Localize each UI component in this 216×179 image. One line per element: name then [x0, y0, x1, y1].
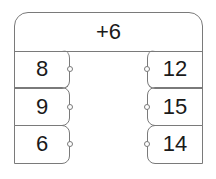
input-value: 8 [36, 56, 48, 82]
output-column: 12 15 14 [147, 51, 203, 164]
output-value: 14 [163, 131, 187, 157]
connector-dot-icon [67, 141, 73, 147]
connector-dot-icon [144, 104, 150, 110]
output-value: 15 [163, 94, 187, 120]
input-cell: 8 [14, 50, 70, 89]
output-value: 12 [163, 56, 187, 82]
input-value: 9 [36, 94, 48, 120]
rule-label: +6 [96, 19, 121, 45]
input-value: 6 [36, 131, 48, 157]
connector-dot-icon [144, 66, 150, 72]
output-cell: 14 [147, 125, 203, 164]
connector-dot-icon [144, 141, 150, 147]
output-cell: 12 [147, 50, 203, 89]
connector-dot-icon [67, 66, 73, 72]
input-column: 8 9 6 [14, 51, 70, 164]
input-cell: 6 [14, 125, 70, 164]
function-machine-header: +6 [14, 12, 203, 52]
output-cell: 15 [147, 87, 203, 126]
connector-dot-icon [67, 104, 73, 110]
input-cell: 9 [14, 87, 70, 126]
